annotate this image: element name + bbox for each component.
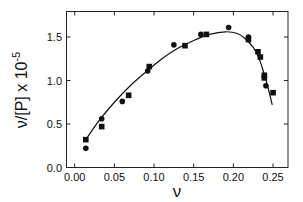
square-marker (258, 54, 264, 60)
x-tick-label: 0.15 (183, 171, 204, 183)
square-marker (182, 43, 188, 49)
x-axis-title: ν (173, 182, 182, 201)
y-tick-label: 1.0 (47, 75, 62, 87)
square-marker (99, 124, 105, 130)
circle-marker (99, 116, 105, 122)
square-marker (126, 92, 132, 98)
x-tick-label: 0.00 (64, 171, 85, 183)
circle-marker (198, 32, 204, 38)
y-tick-label: 0.0 (47, 162, 62, 174)
square-marker (255, 49, 261, 55)
square-marker (204, 32, 210, 38)
fit-curve (86, 32, 272, 140)
y-tick-label: 0.5 (47, 118, 62, 130)
circle-marker (226, 25, 232, 31)
x-tick-label: 0.25 (262, 171, 283, 183)
data-points (83, 25, 276, 152)
axis-ticks (67, 12, 289, 168)
circle-marker (120, 99, 126, 105)
y-axis-title-text: ν/[P] x 10 (13, 61, 30, 128)
square-marker (262, 75, 268, 81)
x-tick-label: 0.20 (223, 171, 244, 183)
y-axis-exponent: -5 (10, 52, 22, 62)
square-marker (146, 64, 152, 70)
svg-text:ν/[P] x 10-5: ν/[P] x 10-5 (10, 52, 30, 128)
square-marker (246, 37, 252, 43)
y-tick-labels: 0.00.51.01.5 (47, 31, 62, 174)
plot-frame (67, 12, 289, 168)
circle-marker (171, 42, 177, 48)
y-tick-label: 1.5 (47, 31, 62, 43)
x-tick-label: 0.05 (104, 171, 125, 183)
circle-marker (83, 146, 89, 152)
square-marker (83, 137, 89, 143)
circle-marker (263, 83, 269, 89)
x-tick-label: 0.10 (143, 171, 164, 183)
y-axis-title: ν/[P] x 10-5 (10, 52, 30, 128)
scatter-chart: 0.000.050.100.150.200.25 0.00.51.01.5 ν … (0, 0, 303, 202)
square-marker (270, 90, 276, 96)
